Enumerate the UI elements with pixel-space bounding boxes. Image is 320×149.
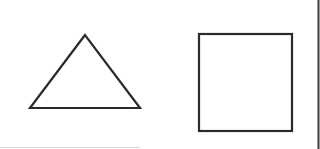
background (0, 0, 320, 149)
shapes-diagram (0, 0, 320, 149)
figure-canvas (0, 0, 320, 149)
